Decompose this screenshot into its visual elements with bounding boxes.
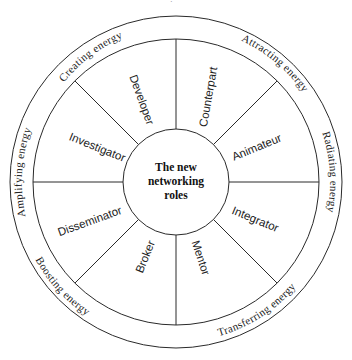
center-title-line-3: roles [164,189,188,201]
center-title-line-1: The new [155,161,198,173]
energy-attracting: Attracting energy [240,32,312,94]
role-mentor: Mentor [190,239,213,277]
role-animateur: Animateur [230,131,283,162]
cropped-caption-mark: · [170,0,173,6]
role-developer: Developer [127,73,156,127]
energy-amplifying: Amplifying energy [12,125,33,218]
role-broker: Broker [133,239,157,275]
spoke-top-right [214,81,278,145]
role-disseminator: Disseminator [56,204,123,238]
energy-creating: Creating energy [56,28,124,83]
center-title-line-2: networking [148,175,204,188]
energy-transferring: Transferring energy [216,280,298,338]
networking-roles-wheel: · The new networking roles Developer Cou… [0,0,352,360]
energy-boosting: Boosting energy [34,255,93,318]
role-integrator: Integrator [230,204,280,234]
role-counterpart: Counterpart [197,65,220,128]
role-investigator: Investigator [68,130,128,163]
